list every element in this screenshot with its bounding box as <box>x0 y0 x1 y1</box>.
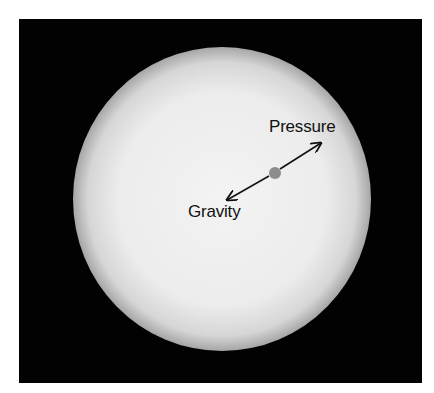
gas-parcel-dot <box>269 167 281 179</box>
star-sphere <box>73 47 371 351</box>
sphere-diagram <box>0 0 434 393</box>
pressure-label: Pressure <box>269 117 335 137</box>
gravity-label: Gravity <box>188 202 240 222</box>
